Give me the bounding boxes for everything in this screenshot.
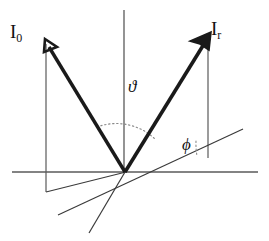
- incident-beam-label: I0: [10, 22, 22, 44]
- incident-beam-subscript: 0: [16, 31, 22, 45]
- incident-beam-shaft: [49, 47, 125, 172]
- reflected-beam-label: Ir: [211, 19, 221, 41]
- phi-angle-arc: [196, 141, 197, 156]
- phi-angle-label: ϕ: [182, 136, 191, 153]
- reflected-beam-subscript: r: [217, 28, 221, 42]
- secondary-ray-line: [89, 172, 125, 233]
- figure-canvas: [0, 0, 269, 241]
- theta-angle-label: ϑ: [128, 78, 136, 95]
- reflection-geometry-figure: I0 Ir ϑ ϕ: [0, 0, 269, 241]
